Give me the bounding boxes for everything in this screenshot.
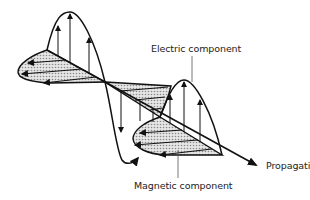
electric-component-label: Electric component <box>151 43 241 54</box>
magnetic-lobe-left <box>18 50 105 83</box>
em-wave-diagram <box>0 0 310 200</box>
magnetic-component-label: Magnetic component <box>134 180 232 191</box>
propagation-label: Propagation <box>266 160 310 171</box>
